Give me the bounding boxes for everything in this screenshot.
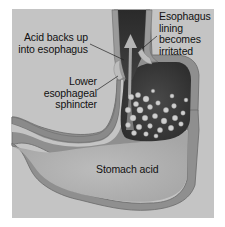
label-stomach-acid: Stomach acid [96, 164, 158, 176]
acid-reflux-diagram: Acid backs up into esophagus Esophagus l… [0, 0, 225, 227]
label-acid-backs-up: Acid backs up into esophagus [18, 32, 88, 55]
label-lower-esophageal-sphincter: Lower esophageal sphincter [40, 76, 97, 111]
label-esophagus-lining-irritated: Esophagus lining becomes irritated [159, 11, 211, 57]
